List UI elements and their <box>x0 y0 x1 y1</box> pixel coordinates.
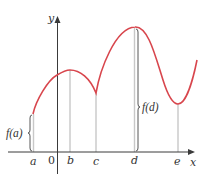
brace-fa <box>28 115 32 151</box>
point-label-c: c <box>93 155 99 168</box>
vertical-guides <box>34 28 179 152</box>
fa-label: f(a) <box>6 127 23 140</box>
fd-label: f(d) <box>142 101 159 114</box>
point-label-d: d <box>131 154 138 167</box>
point-label-b: b <box>67 154 74 167</box>
origin-label: 0 <box>48 154 55 167</box>
x-axis-label: x <box>190 156 197 169</box>
point-label-a: a <box>30 155 37 168</box>
function-extrema-diagram: y x 0 a b c d e f(a) f(d) <box>0 0 211 182</box>
y-axis-arrow-icon <box>55 16 61 23</box>
x-axis-arrow-icon <box>188 149 195 155</box>
brace-fd <box>136 29 140 151</box>
point-label-e: e <box>174 155 181 168</box>
y-axis-label: y <box>47 12 55 25</box>
